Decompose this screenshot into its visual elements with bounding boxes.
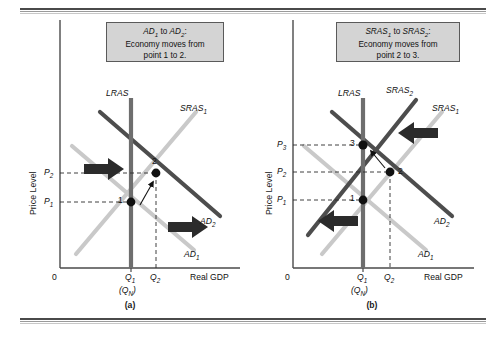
point-2-label: 2 [152, 156, 157, 166]
origin-label: 0 [52, 272, 57, 282]
point-1-label: 1 [350, 193, 355, 203]
ad1-label: AD1 [184, 249, 199, 261]
sras1-label: SRAS1 [432, 103, 459, 115]
equilibrium-point-3 [358, 140, 367, 149]
point-2-label: 2 [398, 166, 403, 176]
p1-tick-label: P1 [277, 194, 286, 206]
equilibrium-point-2 [386, 168, 395, 177]
ad2-label: AD2 [200, 216, 215, 228]
p2-tick-label: P2 [44, 167, 53, 179]
ad2-label: AD2 [434, 216, 449, 228]
figure-frame: AD1 to AD2: Economy moves from point 1 t… [0, 0, 504, 338]
sras1-curve [76, 112, 196, 254]
q2-tick-label: Q2 [150, 272, 160, 284]
y-axis-title: Price Level [28, 171, 38, 215]
x-axis-title: Real GDP [424, 272, 463, 282]
equilibrium-point-1 [359, 196, 368, 205]
point-1-label: 1 [118, 195, 123, 205]
panel-b-plot [252, 0, 504, 316]
panel-b-caption: (b) [352, 300, 392, 310]
qn-tick-label: (QN) [351, 285, 368, 297]
q1-tick-label: Q1 [125, 272, 135, 284]
equilibrium-point-2 [152, 169, 161, 178]
ad1-label: AD1 [418, 249, 433, 261]
panel-b: SRAS1 to SRAS2: Economy moves from point… [252, 0, 504, 316]
qn-tick-label: (QN) [119, 285, 136, 297]
x-axis-title: Real GDP [190, 272, 229, 282]
point-3-label: 3 [350, 138, 355, 148]
origin-label: 0 [285, 272, 290, 282]
q2-tick-label: Q2 [384, 272, 394, 284]
q1-tick-label: Q1 [357, 272, 367, 284]
lras-label: LRAS [338, 88, 360, 98]
bottom-divider-rule [20, 318, 486, 324]
panel-a-caption: (a) [110, 300, 150, 310]
p2-tick-label: P2 [277, 166, 286, 178]
sras2-label: SRAS2 [386, 85, 413, 97]
panel-a: AD1 to AD2: Economy moves from point 1 t… [0, 0, 252, 316]
equilibrium-point-1 [127, 198, 136, 207]
panel-a-plot [0, 0, 252, 316]
movement-arrow-1-to-2 [140, 182, 153, 205]
sras1-label: SRAS1 [180, 103, 207, 115]
p3-tick-label: P3 [277, 139, 286, 151]
lras-label: LRAS [106, 88, 128, 98]
p1-tick-label: P1 [44, 196, 53, 208]
y-axis-title: Price Level [264, 171, 274, 215]
